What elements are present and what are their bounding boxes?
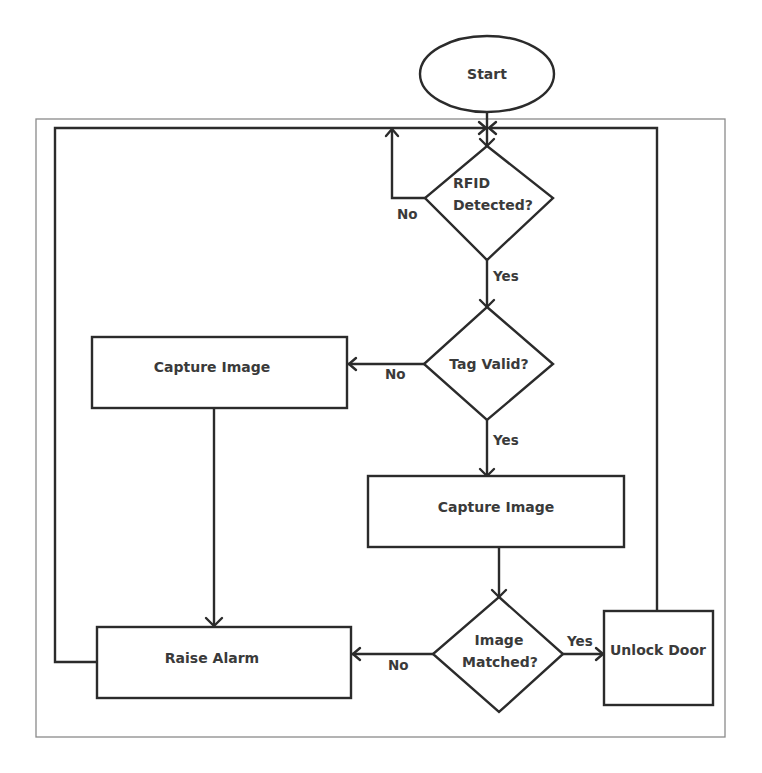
node-capture-image-left: Capture Image — [92, 337, 347, 408]
flowchart-canvas: Start RFID Detected? Tag Valid? Capture … — [0, 0, 762, 773]
edge-rfid-no — [392, 130, 425, 198]
edge-label-tag-no: No — [385, 366, 406, 382]
node-tag-valid: Tag Valid? — [424, 307, 553, 420]
alarm-label: Raise Alarm — [165, 650, 259, 666]
unlock-label: Unlock Door — [610, 642, 706, 658]
rfid-label-line2: Detected? — [453, 197, 533, 213]
match-label-line1: Image — [475, 632, 524, 648]
node-image-matched: Image Matched? — [433, 597, 563, 712]
node-rfid-detected: RFID Detected? — [425, 146, 553, 260]
node-raise-alarm: Raise Alarm — [97, 627, 351, 698]
edge-label-rfid-yes: Yes — [492, 268, 519, 284]
node-start: Start — [420, 36, 554, 112]
edge-label-tag-yes: Yes — [492, 432, 519, 448]
capture-left-label: Capture Image — [154, 359, 270, 375]
rfid-label-line1: RFID — [453, 175, 490, 191]
edge-label-match-no: No — [388, 657, 409, 673]
start-label: Start — [467, 66, 507, 82]
capture-right-label: Capture Image — [438, 499, 554, 515]
tag-label: Tag Valid? — [449, 356, 528, 372]
edge-label-rfid-no: No — [397, 206, 418, 222]
unlock-box — [604, 611, 713, 705]
edge-label-match-yes: Yes — [566, 633, 593, 649]
node-capture-image-right: Capture Image — [368, 476, 624, 547]
match-label-line2: Matched? — [462, 654, 538, 670]
node-unlock-door: Unlock Door — [604, 611, 713, 705]
